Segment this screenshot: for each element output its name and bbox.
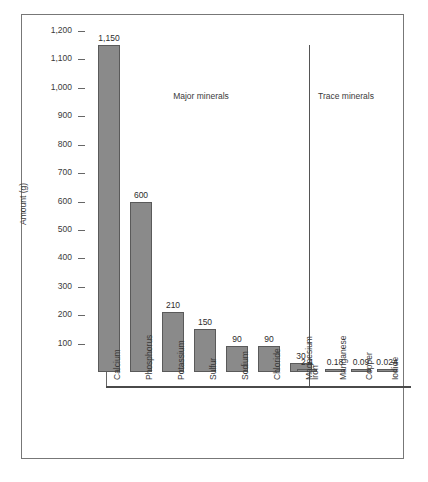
x-axis-category-label: Chloride	[273, 348, 282, 380]
group-label-major: Major minerals	[151, 91, 251, 101]
bar-value-label: 150	[185, 317, 225, 327]
x-axis-category-label: Manganese	[339, 336, 348, 380]
y-axis-tick	[78, 173, 85, 174]
y-axis-tick	[78, 230, 85, 231]
y-axis-tick	[78, 116, 85, 117]
y-axis-tick	[78, 315, 85, 316]
y-axis-tick	[78, 145, 85, 146]
group-label-trace: Trace minerals	[301, 91, 391, 101]
y-axis-tick	[78, 88, 85, 89]
y-axis-tick-label: 1,000	[42, 83, 72, 92]
bar	[98, 45, 120, 372]
y-axis-tick	[78, 202, 85, 203]
bar-value-label: 90	[249, 334, 289, 344]
y-axis-tick-label: 1,200	[42, 26, 72, 35]
y-axis-tick	[78, 287, 85, 288]
bar-value-label: 1,150	[89, 33, 129, 43]
y-axis-tick-label: 700	[42, 168, 72, 177]
bar-value-label: 210	[153, 300, 193, 310]
y-axis-tick-label: 100	[42, 339, 72, 348]
x-axis-category-label: Iron	[311, 365, 320, 380]
y-axis-tick-label: 600	[42, 197, 72, 206]
y-axis-tick	[78, 344, 85, 345]
y-axis-tick-label: 900	[42, 111, 72, 120]
figure-frame: Amount (g) 1,2001,1001,00090080070060050…	[21, 14, 404, 459]
x-axis-category-label: Sodium	[241, 351, 250, 380]
x-axis-category-label: Sulfur	[209, 358, 218, 380]
y-axis-tick-label: 400	[42, 253, 72, 262]
bar-value-label: 600	[121, 190, 161, 200]
chart-figure: Amount (g) 1,2001,1001,00090080070060050…	[0, 0, 428, 482]
x-axis-category-label: Iodide	[391, 357, 400, 380]
y-axis-tick-label: 1,100	[42, 54, 72, 63]
y-axis-tick-label: 800	[42, 140, 72, 149]
y-axis-tick-label: 300	[42, 282, 72, 291]
x-axis-category-label: Potassium	[177, 340, 186, 380]
y-axis-title: Amount (g)	[18, 183, 28, 225]
y-axis-tick	[78, 31, 85, 32]
y-axis-tick	[78, 59, 85, 60]
x-axis-category-label: Copper	[365, 352, 374, 380]
y-axis-tick-label: 200	[42, 310, 72, 319]
x-axis-category-label: Calcium	[113, 349, 122, 380]
y-axis-tick-label: 500	[42, 225, 72, 234]
x-axis-baseline	[106, 386, 411, 388]
y-axis-tick	[78, 258, 85, 259]
x-axis-category-label: Phosphorus	[145, 335, 154, 380]
